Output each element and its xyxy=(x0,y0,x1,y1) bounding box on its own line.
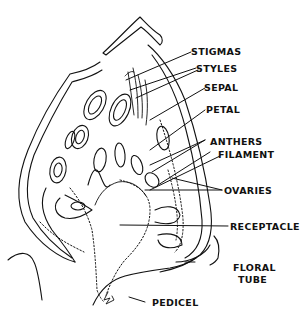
label-floral-tube-line1: FLORAL xyxy=(233,263,276,273)
label-receptacle: RECEPTACLE xyxy=(230,222,300,232)
label-sepal: SEPAL xyxy=(204,83,238,93)
label-filament: FILAMENT xyxy=(218,150,274,160)
label-styles: STYLES xyxy=(196,64,237,74)
label-anthers: ANTHERS xyxy=(210,137,262,147)
label-floral-tube-line2: TUBE xyxy=(238,275,267,285)
label-pedicel: PEDICEL xyxy=(152,298,199,308)
label-petal: PETAL xyxy=(206,105,240,115)
flower-section-diagram: STIGMAS STYLES SEPAL PETAL ANTHERS FILAM… xyxy=(0,0,301,315)
label-stigmas: STIGMAS xyxy=(191,47,241,57)
label-ovaries: OVARIES xyxy=(224,186,272,196)
